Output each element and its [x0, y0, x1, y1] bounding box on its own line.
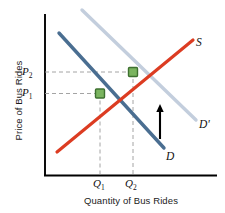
- demand-shifted-curve-label: D': [199, 118, 210, 130]
- demand-shift-arrow-icon: [156, 104, 163, 139]
- y-tick-label-p1: P1: [22, 86, 32, 101]
- demand-shifted-curve: [82, 10, 196, 120]
- x-tick-label-q1: Q1: [93, 177, 105, 192]
- y-axis-title: Price of Bus Rides: [13, 36, 24, 166]
- equilibrium-point-2: [129, 68, 138, 77]
- demand-curve-label: D: [166, 150, 174, 162]
- x-tick-label-q2: Q2: [125, 177, 137, 192]
- supply-demand-chart: P2 P1 Q1 Q2 S D D' Price of Bus Rides Qu…: [0, 0, 225, 213]
- chart-plot-area: [0, 0, 225, 213]
- equilibrium-point-1: [96, 89, 105, 98]
- x-axis-title: Quantity of Bus Rides: [45, 195, 217, 206]
- demand-curve: [59, 33, 164, 148]
- y-tick-label-p2: P2: [22, 65, 32, 80]
- supply-curve-label: S: [196, 36, 202, 48]
